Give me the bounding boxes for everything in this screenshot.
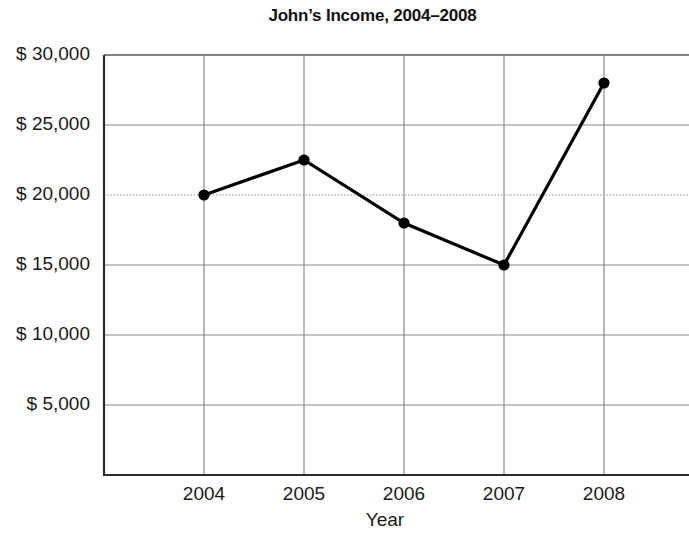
x-tick-label-2004: 2004: [159, 483, 249, 505]
data-point-2004: [198, 189, 209, 200]
x-tick-label-2007: 2007: [459, 483, 549, 505]
y-tick-label-20000: $ 20,000: [0, 183, 90, 205]
data-point-2005: [298, 154, 309, 165]
y-tick-label-10000: $ 10,000: [0, 323, 90, 345]
x-axis-title: Year: [340, 509, 430, 531]
y-tick-label-30000: $ 30,000: [0, 43, 90, 65]
x-tick-label-2008: 2008: [559, 483, 649, 505]
x-tick-label-2005: 2005: [259, 483, 349, 505]
data-point-2008: [598, 77, 609, 88]
data-point-2006: [398, 217, 409, 228]
line-chart: John’s Income, 2004–2008 $ 30,000 $ 25,0…: [0, 0, 689, 538]
data-point-2007: [498, 259, 509, 270]
y-tick-label-15000: $ 15,000: [0, 253, 90, 275]
y-tick-label-25000: $ 25,000: [0, 113, 90, 135]
y-tick-label-5000: $ 5,000: [0, 393, 90, 415]
plot-area: [0, 0, 689, 538]
x-tick-label-2006: 2006: [359, 483, 449, 505]
